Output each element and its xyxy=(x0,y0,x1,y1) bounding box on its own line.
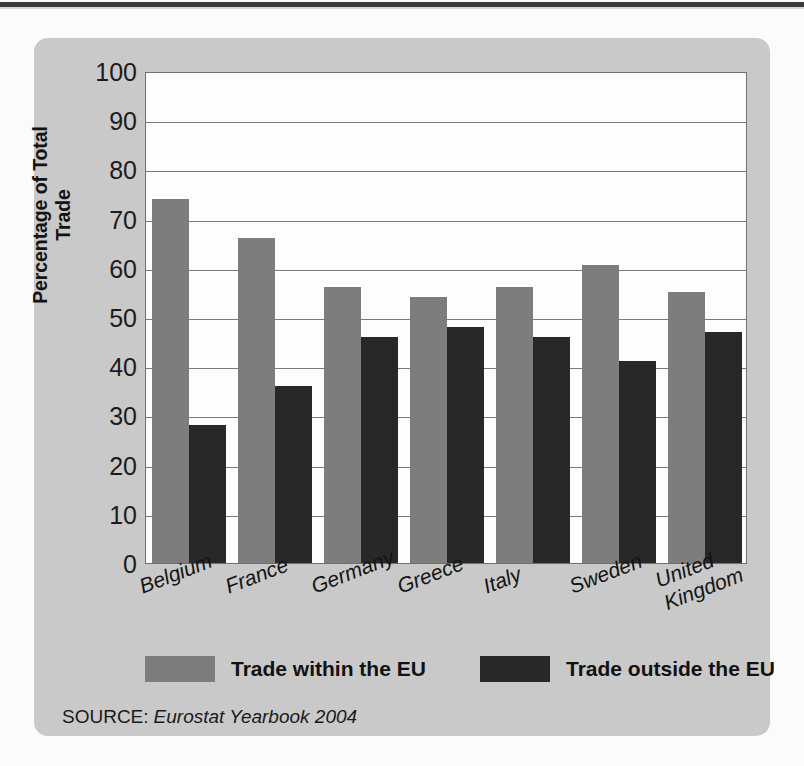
bars-layer xyxy=(146,73,746,563)
y-axis-tick-labels: 0102030405060708090100 xyxy=(75,72,137,564)
x-tick-label-line: Italy xyxy=(480,562,524,598)
source-line: SOURCE:Eurostat Yearbook 2004 xyxy=(62,706,357,728)
bar-france-within-eu xyxy=(238,238,275,563)
bar-germany-outside-eu xyxy=(361,337,398,563)
source-label: SOURCE: xyxy=(62,706,149,727)
bar-sweden-outside-eu xyxy=(619,361,656,563)
bar-united-kingdom-outside-eu xyxy=(705,332,742,563)
plot-area xyxy=(145,72,747,564)
y-tick-label-30: 30 xyxy=(77,404,137,429)
y-tick-label-20: 20 xyxy=(77,454,137,479)
bar-greece-within-eu xyxy=(410,297,447,563)
top-rule-shadow xyxy=(0,7,804,9)
y-tick-label-50: 50 xyxy=(77,306,137,331)
legend-item-trade-outside-eu: Trade outside the EU xyxy=(480,656,775,682)
legend-label: Trade within the EU xyxy=(231,657,426,681)
chart-legend: Trade within the EUTrade outside the EU xyxy=(145,656,765,688)
bar-united-kingdom-within-eu xyxy=(668,292,705,563)
legend-swatch-outside xyxy=(480,656,550,682)
bar-italy-within-eu xyxy=(496,287,533,563)
y-tick-label-90: 90 xyxy=(77,109,137,134)
bar-sweden-within-eu xyxy=(582,265,619,563)
legend-item-trade-within-eu: Trade within the EU xyxy=(145,656,426,682)
bar-france-outside-eu xyxy=(275,386,312,563)
bar-belgium-within-eu xyxy=(152,199,189,563)
y-tick-label-70: 70 xyxy=(77,208,137,233)
y-tick-label-80: 80 xyxy=(77,158,137,183)
y-axis-title: Percentage of Total Trade xyxy=(29,105,75,325)
bar-germany-within-eu xyxy=(324,287,361,563)
x-axis-tick-labels: BelgiumFranceGermanyGreeceItalySwedenUni… xyxy=(145,566,747,652)
bar-italy-outside-eu xyxy=(533,337,570,563)
source-citation: Eurostat Yearbook 2004 xyxy=(154,706,358,727)
bar-belgium-outside-eu xyxy=(189,425,226,563)
y-tick-label-40: 40 xyxy=(77,355,137,380)
y-tick-label-60: 60 xyxy=(77,257,137,282)
bar-greece-outside-eu xyxy=(447,327,484,563)
chart-page: Percentage of Total Trade 01020304050607… xyxy=(0,0,804,766)
y-tick-label-100: 100 xyxy=(77,60,137,85)
legend-label: Trade outside the EU xyxy=(566,657,775,681)
y-tick-label-10: 10 xyxy=(77,503,137,528)
x-tick-label-italy: Italy xyxy=(480,562,524,598)
legend-swatch-within xyxy=(145,656,215,682)
y-tick-label-0: 0 xyxy=(77,552,137,577)
